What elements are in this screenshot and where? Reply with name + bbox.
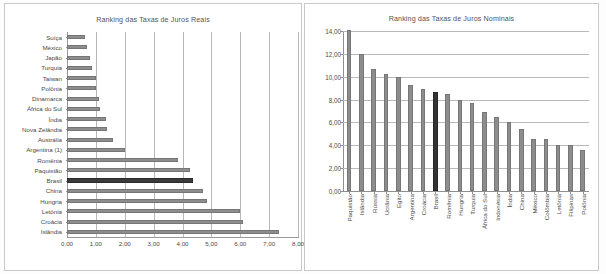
bar-let-nia [67,209,240,213]
bar-row [67,186,298,195]
bar-column [443,31,453,191]
bar-row [67,94,298,103]
right-chart-category-axis: PaquistãoIslândiaRússiaUcrâniaEgitoArgen… [343,192,589,270]
bar-let-nia [556,145,561,191]
right-chart-value-axis: 0,002,004,006,008,0010,0012,0014,00 [311,25,341,197]
category-label: Letônia [5,207,65,216]
bar-brasil [433,92,438,191]
bar-jap-o [67,56,90,60]
category-label: Nova Zelândia [5,125,65,134]
bar-china [67,189,203,193]
left-chart-category-axis: SuíçaMéxicoJapãoTurquiaTaiwanPolôniaDina… [5,32,65,237]
bar-rom-nia [67,158,178,162]
category-label: Turquia [469,194,476,215]
category-label: Hungria [456,194,463,216]
category-label: Colômbia [542,194,549,220]
bar-egito [396,77,401,191]
category-label: Hungria [5,196,65,205]
bar-dinamarca [67,97,99,101]
category-label: África do Sul [481,194,488,229]
nominal-interest-rate-chart: Ranking das Taxas de Juros Nominais 0,00… [304,3,599,271]
bar-row [67,125,298,134]
bar-taiwan [67,76,96,80]
category-label: Croácia [5,217,65,226]
left-chart-value-axis: 0,001,002,003,004,005,006,007,008,00 [67,240,298,252]
category-label-wrap: México [529,192,539,270]
category-label: Romênia [5,155,65,164]
bar-row [67,104,298,113]
bar-frica-do-sul [67,107,100,111]
bar-pol-nia [67,86,96,90]
bar-column [344,31,354,191]
bar-column [578,31,588,191]
axis-tick-label: 12,00 [325,50,341,57]
bar-column [565,31,575,191]
axis-tick-label: 3,00 [148,240,160,247]
category-label: Islândia [5,227,65,236]
bar-cro-cia [67,220,243,224]
category-label-wrap: Colômbia [541,192,551,270]
bar-row [67,196,298,205]
bar-row [67,32,298,41]
bar-turquia [470,103,475,191]
right-chart-plot-area [343,31,589,191]
category-label: Taiwan [5,73,65,82]
bar-argentina [408,85,413,191]
category-label: Austrália [5,135,65,144]
bar-china [519,129,524,191]
bar-row [67,84,298,93]
bar-paquist-o [347,30,352,191]
bar-row [67,114,298,123]
category-label: Índia [5,114,65,123]
category-label-wrap: Argentina [406,192,416,270]
bar-row [67,135,298,144]
left-chart-title: Ranking das Taxas de Juros Reais [5,15,301,24]
bar-ucr-nia [384,74,389,191]
category-label-wrap: Hungria [455,192,465,270]
bar-col-mbia [544,139,549,191]
bar-r-ssia [371,69,376,191]
bar-m-xico [67,45,87,49]
category-label-wrap: Indonésia [492,192,502,270]
category-label: Japão [5,53,65,62]
bar-row [67,176,298,185]
bar-row [67,166,298,175]
category-label: Turquia [5,63,65,72]
bar-column [529,31,539,191]
category-label: Dinamarca [5,94,65,103]
bar-column [553,31,563,191]
category-label: África do Sul [5,104,65,113]
bar-column [492,31,502,191]
bar-row [67,145,298,154]
gridline [298,32,299,237]
category-label: Polônia [579,194,586,215]
category-label: México [5,43,65,52]
bar-column [479,31,489,191]
category-label-wrap: Romênia [443,192,453,270]
bar-pol-nia [580,150,585,191]
bar-column [393,31,403,191]
category-label-wrap: Índia [504,192,514,270]
bar-nova-zel-ndia [67,127,107,131]
category-label: Romênia [444,194,451,219]
category-label: Brasil [5,176,65,185]
bar-brasil [67,178,193,183]
category-label: Argentina (1) [5,145,65,154]
axis-tick-label: 0,00 [61,240,73,247]
category-label: Rússia [370,194,377,213]
category-label: Índia [506,194,513,207]
category-label-wrap: Ucrânia [381,192,391,270]
category-label-wrap: Brasil [430,192,440,270]
bar-austr-lia [67,138,113,142]
bar-row [67,207,298,216]
bar-argentina-1 [67,148,125,152]
axis-tick-label: 8,00 [292,240,304,247]
bar-column [356,31,366,191]
category-label: Argentina [407,194,414,221]
category-label: Ucrânia [383,194,390,215]
axis-tick-label: 2,00 [119,240,131,247]
axis-tick-label: 7,00 [263,240,275,247]
category-label: Suíça [5,32,65,41]
bar-row [67,63,298,72]
category-label: China [518,194,525,210]
